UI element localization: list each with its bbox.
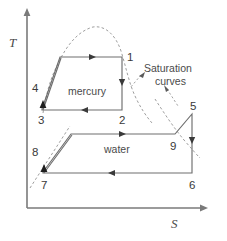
saturation-leader-mercury xyxy=(130,75,141,88)
saturation-curves-label-line1: Saturation xyxy=(144,62,192,74)
mercury-top-flow-arrowhead xyxy=(89,54,96,60)
mercury-cycle-path xyxy=(42,57,122,110)
state-label-7: 7 xyxy=(41,179,47,191)
annotation-text-group: Saturation curves xyxy=(144,62,192,87)
state-label-5: 5 xyxy=(190,100,196,112)
state-label-6: 6 xyxy=(189,179,195,191)
mercury-process-4-to-1-edge xyxy=(43,58,61,110)
water-top-flow-arrowhead xyxy=(119,131,126,137)
saturation-curves-group xyxy=(30,27,200,188)
water-region-label: water xyxy=(103,143,130,155)
ts-diagram-canvas: T S xyxy=(0,0,227,241)
water-right-flow-arrowhead xyxy=(189,137,195,144)
y-axis-label: T xyxy=(9,35,17,50)
water-bottom-flow-arrowhead xyxy=(108,170,115,176)
saturation-curves-label-line2: curves xyxy=(155,75,186,87)
state-label-8: 8 xyxy=(32,146,38,158)
x-axis-arrowhead xyxy=(200,205,208,212)
x-axis-label: S xyxy=(171,216,178,231)
water-process-8-edge xyxy=(44,135,72,173)
saturation-leader-water xyxy=(167,89,178,106)
y-axis-arrowhead xyxy=(24,8,31,16)
state-label-9: 9 xyxy=(170,140,176,152)
state-label-4: 4 xyxy=(32,82,39,94)
state-label-1: 1 xyxy=(127,51,133,63)
mercury-bottom-flow-arrowhead xyxy=(81,107,88,113)
mercury-right-flow-arrowhead xyxy=(119,79,125,86)
state-label-3: 3 xyxy=(38,114,44,126)
state-label-2: 2 xyxy=(119,114,125,126)
mercury-region-label: mercury xyxy=(68,85,107,97)
mercury-cycle-group xyxy=(40,54,126,113)
ts-diagram-figure: T S xyxy=(0,0,227,241)
mercury-saturation-dome xyxy=(43,27,152,123)
